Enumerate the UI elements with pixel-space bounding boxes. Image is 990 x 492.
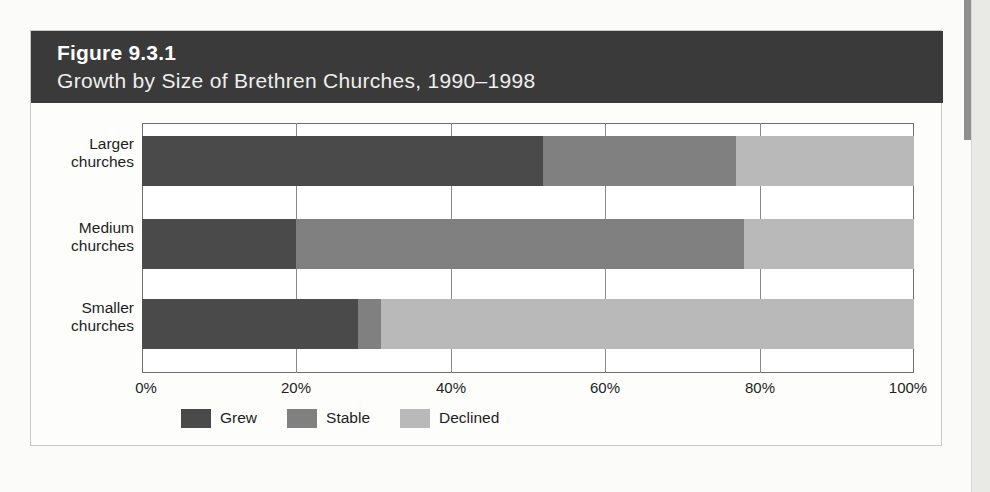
xtick-100: 100% [889,379,927,396]
xtick-20: 20% [281,379,311,396]
legend-swatch-grew-icon [181,409,211,428]
bar-segment-smaller-grew [142,299,358,349]
legend-item-declined: Declined [400,409,499,428]
xtick-80: 80% [745,379,775,396]
figure-container: Figure 9.3.1 Growth by Size of Brethren … [30,30,942,446]
bar-segment-medium-declined [744,219,914,269]
xtick-60: 60% [590,379,620,396]
legend-item-stable: Stable [287,409,370,428]
category-label-larger-line2: churches [34,153,134,171]
category-label-larger: Larger churches [34,135,134,171]
bar-segment-larger-stable [543,136,736,186]
plot-area [142,123,914,373]
page-background: Figure 9.3.1 Growth by Size of Brethren … [0,0,990,492]
category-label-smaller: Smaller churches [34,299,134,335]
bar-segment-smaller-declined [381,299,914,349]
legend-item-grew: Grew [181,409,257,428]
category-label-smaller-line2: churches [34,317,134,335]
legend-label-grew: Grew [220,409,257,427]
legend-swatch-declined-icon [400,409,430,428]
category-label-smaller-line1: Smaller [34,299,134,317]
bar-segment-larger-grew [142,136,543,186]
xtick-0: 0% [135,379,157,396]
xtick-40: 40% [436,379,466,396]
bar-segment-smaller-stable [358,299,381,349]
bar-segment-medium-grew [142,219,296,269]
scan-page-edge [971,0,990,492]
category-label-larger-line1: Larger [34,135,134,153]
legend-swatch-stable-icon [287,409,317,428]
bar-row-larger-churches [142,136,914,186]
figure-header-band: Figure 9.3.1 Growth by Size of Brethren … [31,31,943,103]
category-axis-labels: Larger churches Medium churches Smaller … [31,123,134,373]
bar-row-medium-churches [142,219,914,269]
category-label-medium-line1: Medium [34,219,134,237]
figure-number: Figure 9.3.1 [57,39,943,66]
bar-segment-medium-stable [296,219,744,269]
value-axis-tick-labels: 0% 20% 40% 60% 80% 100% [142,379,914,401]
chart-body: Larger churches Medium churches Smaller … [31,103,943,446]
legend-label-stable: Stable [326,409,370,427]
bar-row-smaller-churches [142,299,914,349]
chart-legend: Grew Stable Declined [181,405,529,431]
category-label-medium-line2: churches [34,237,134,255]
category-label-medium: Medium churches [34,219,134,255]
bar-segment-larger-declined [736,136,914,186]
legend-label-declined: Declined [439,409,499,427]
figure-title: Growth by Size of Brethren Churches, 199… [57,66,943,95]
